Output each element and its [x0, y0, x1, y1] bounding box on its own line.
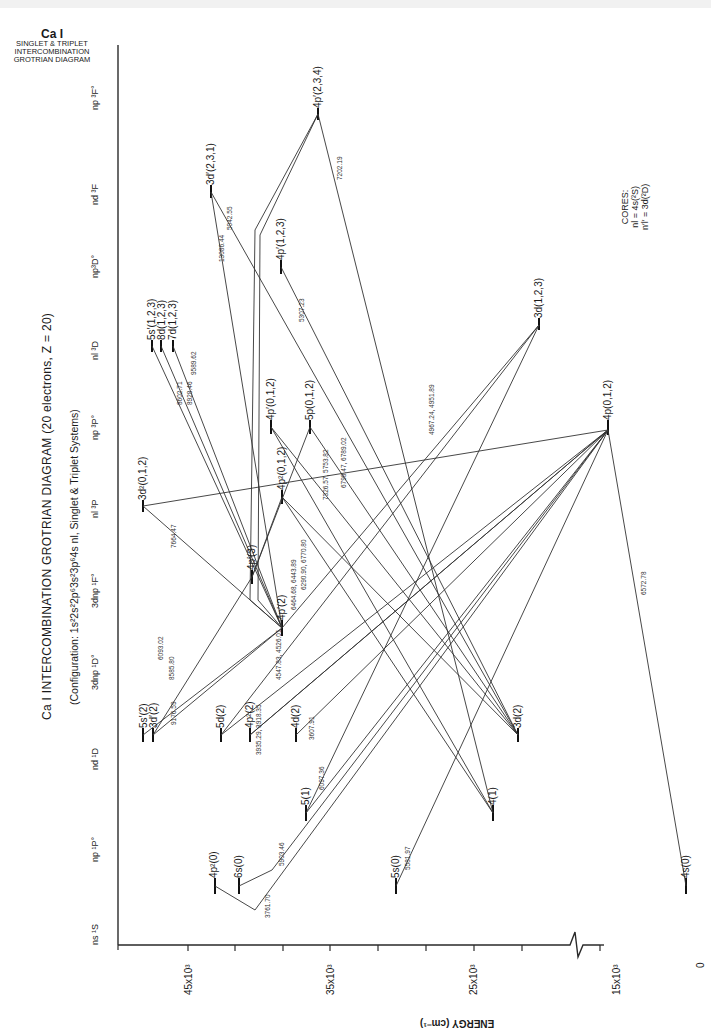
wl-3607: 3607.91 — [308, 717, 315, 741]
level-3d-123: 3d(1,2,3) — [533, 278, 544, 318]
wl-6093: 6093.02 — [157, 637, 164, 661]
energy-axis-title: ENERGY (cm⁻¹) — [420, 1018, 494, 1029]
level-4-1: 4(1) — [487, 787, 498, 805]
wl-8602: 8602.71 — [176, 382, 183, 406]
wl-6464: 6464.68, 6443.89 — [290, 559, 297, 610]
wl-9176: 9176.59 — [170, 702, 177, 726]
level-4p2-0: 4p²(0) — [208, 851, 219, 878]
cores-line-1: nl = 4s(²S) — [630, 184, 640, 230]
wl-3761: 3761.70 — [264, 895, 271, 919]
axis-tick-45k: 45x10³ — [183, 964, 194, 995]
wl-5903: 5903.46 — [278, 843, 285, 867]
wl-6572: 6572.78 — [640, 572, 647, 596]
level-8d-123: 8d(1,2,3) — [156, 300, 167, 340]
level-3dp-2: 3d′(2) — [148, 703, 159, 728]
cores-legend: CORES: nl = 4s(²S) n′l′ = 3d(²D) — [620, 184, 650, 230]
wl-4547: 4547.83, 4526.01 — [275, 629, 282, 680]
wl-6097: 6097.36 — [318, 767, 325, 791]
level-4s0: 4s(0) — [680, 855, 691, 878]
wl-9589: 9589.62 — [190, 352, 197, 376]
axis-tick-0: 0 — [695, 962, 706, 968]
level-4d-2: 4d(2) — [290, 705, 301, 728]
wl-5581: 5581.97 — [404, 847, 411, 871]
level-5d-2: 5d(2) — [215, 705, 226, 728]
level-4pp-234: 4p′(2,3,4) — [312, 66, 323, 108]
level-5sp-123: 5s′(1,2,3) — [146, 299, 157, 340]
level-4pp-2: 4p′(2) — [276, 595, 287, 620]
level-4pp-3: 4p′(3) — [246, 545, 257, 570]
wl-6290: 6290.90, 6770.80 — [300, 539, 307, 590]
wl-4967: 4967.24, 4951.89 — [428, 384, 435, 435]
wl-5042: 5042.55 — [226, 207, 233, 231]
level-5s0: 5s(0) — [390, 855, 401, 878]
level-5p-012: 5p(0,1,2) — [304, 380, 315, 420]
level-4p2-2: 4p²(2) — [244, 701, 255, 728]
wl-7664: 7664.47 — [170, 525, 177, 549]
wl-13086: 13086.44 — [218, 235, 225, 262]
level-4p2-012: 4p²(0,1,2) — [276, 447, 287, 490]
wl-8585: 8585.80 — [168, 657, 175, 681]
level-7d-123: 7d(1,2,3) — [167, 300, 178, 340]
level-4pp-012: 4p′(0,1,2) — [265, 378, 276, 420]
level-5sp-2: 5s′(2) — [138, 703, 149, 728]
level-5-1: 5(1) — [300, 787, 311, 805]
cores-line-2: n′l′ = 3d(²D) — [640, 184, 650, 230]
level-4p-012: 4p(0,1,2) — [602, 380, 613, 420]
wl-7202: 7202.19 — [336, 157, 343, 181]
wl-5307: 5307.23 — [298, 299, 305, 323]
level-3d-2: 3d(2) — [512, 705, 523, 728]
wl-7326: 7326.57, 5753.82 — [322, 449, 329, 500]
cores-title: CORES: — [620, 184, 630, 230]
wl-3935: 3935.29, 3918.35 — [255, 704, 262, 755]
level-3d2-012: 3d²(0,1,2) — [137, 457, 148, 500]
axis-tick-25k: 25x10³ — [468, 964, 479, 995]
wl-8928: 8928.46 — [186, 382, 193, 406]
axis-tick-35k: 35x10³ — [325, 964, 336, 995]
axis-tick-15k: 15x10³ — [611, 964, 622, 995]
wl-6798: 6798.47, 6789.02 — [340, 437, 347, 488]
level-6s0: 6s(0) — [233, 855, 244, 878]
level-4pp-123: 4p′(1,2,3) — [275, 218, 286, 260]
level-3dp-231: 3d′(2,3,1) — [205, 143, 216, 185]
